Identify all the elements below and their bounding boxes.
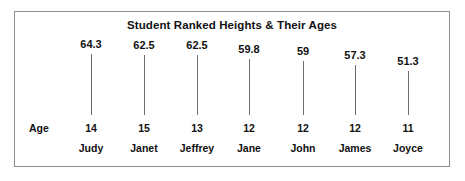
student-name-label: Joyce [376,142,440,154]
height-value-label: 51.3 [376,55,440,67]
stem-line [144,55,145,115]
stem-line [197,55,198,115]
stem-line [355,65,356,115]
stem-line [249,59,250,115]
stem-line [408,71,409,115]
age-value-label: 11 [376,122,440,134]
stem-column: 51.3 11 Joyce [376,12,440,166]
chart-frame: Student Ranked Heights & Their Ages Age … [14,11,450,167]
stem-line [91,54,92,115]
stem-line [303,61,304,115]
age-row-label: Age [29,122,49,134]
